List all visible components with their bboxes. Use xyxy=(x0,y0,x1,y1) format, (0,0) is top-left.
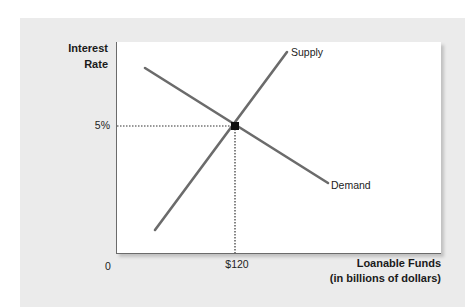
y-axis-label: Interest Rate xyxy=(40,40,108,72)
demand-label: Demand xyxy=(331,179,371,191)
x-axis-label-line1: Loanable Funds xyxy=(290,256,441,271)
y-tick-5pct: 5% xyxy=(80,119,110,131)
supply-label: Supply xyxy=(291,46,323,58)
x-axis-label-line2: (in billions of dollars) xyxy=(290,271,441,286)
equilibrium-point xyxy=(231,122,239,130)
x-axis-label: Loanable Funds (in billions of dollars) xyxy=(290,256,441,285)
origin-label: 0 xyxy=(105,260,111,272)
supply-curve xyxy=(155,52,287,230)
y-axis-label-line1: Interest xyxy=(40,40,108,56)
x-tick-120: $120 xyxy=(217,258,257,270)
y-axis-label-line2: Rate xyxy=(40,56,108,72)
